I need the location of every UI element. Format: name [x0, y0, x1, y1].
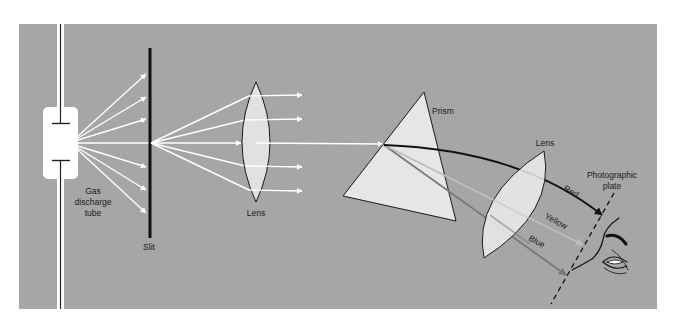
- plate-label-line2: plate: [603, 181, 622, 191]
- lens2-label: Lens: [536, 138, 554, 148]
- gas-discharge-tube: [43, 107, 78, 179]
- spectroscope-diagram: Gas discharge tube Slit Lens Prism Lens …: [0, 0, 682, 334]
- background-panel: [19, 24, 657, 309]
- tube-label-line2: discharge: [75, 197, 112, 207]
- slit-label: Slit: [143, 242, 155, 252]
- prism-label: Prism: [432, 106, 454, 116]
- lens1-label: Lens: [247, 208, 265, 218]
- tube-label-line1: Gas: [85, 186, 101, 196]
- plate-label-line1: Photographic: [587, 170, 638, 180]
- tube-label-line3: tube: [85, 208, 102, 218]
